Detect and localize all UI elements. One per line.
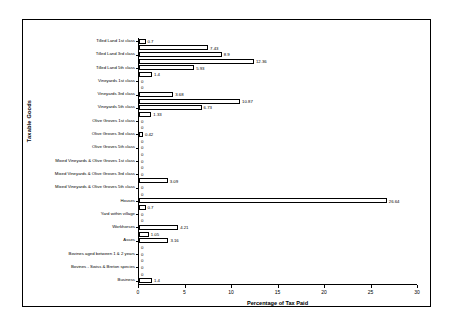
bar — [139, 45, 208, 50]
bar-row: Olive Groves 1st class0 — [138, 118, 417, 125]
bar — [139, 232, 149, 237]
bar — [139, 59, 254, 64]
bar — [139, 92, 173, 97]
chart-figure: Taxable Goods Business1.40Bovines - Swis… — [0, 0, 453, 325]
bar-value-label: 3.16 — [170, 237, 178, 244]
category-label: Mixed Vineyards & Olive Groves 5th class — [0, 184, 138, 191]
bar — [139, 65, 194, 70]
category-label: Vineyards 1st class — [0, 78, 138, 85]
y-axis-tick — [136, 81, 139, 82]
y-axis-tick — [136, 227, 139, 228]
y-axis-tick — [136, 148, 139, 149]
bar-row: 0 — [138, 191, 417, 198]
y-axis-tick — [136, 188, 139, 189]
bar-value-label: 12.36 — [256, 58, 267, 65]
bar-row: Bovines - Swiss & Breton species0 — [138, 264, 417, 271]
bar-value-label: 0 — [141, 124, 143, 131]
bar-row: 0.7 — [138, 204, 417, 211]
bar-row: Mixed Vineyards & Olive Groves 1st class… — [138, 158, 417, 165]
bar-row: Workhorses4.21 — [138, 224, 417, 231]
y-axis-tick — [136, 281, 139, 282]
bar-row: 0 — [138, 244, 417, 251]
bar-value-label: 0 — [141, 84, 143, 91]
bar-value-label: 0 — [141, 251, 143, 258]
category-label: Olive Groves 5th class — [0, 144, 138, 151]
category-label: Olive Groves 1st class — [0, 118, 138, 125]
bar-value-label: 0 — [141, 217, 143, 224]
bar — [139, 39, 146, 44]
bar-value-label: 0 — [141, 138, 143, 145]
bar-value-label: 0.42 — [145, 131, 153, 138]
y-axis-tick — [136, 214, 139, 215]
x-axis-tick-label: 0 — [128, 289, 148, 295]
category-label: Bovines - Swiss & Breton species — [0, 264, 138, 271]
bar-value-label: 8.9 — [224, 51, 230, 58]
bar-row: 0 — [138, 151, 417, 158]
x-axis-tick — [417, 285, 418, 288]
bar-value-label: 5.93 — [196, 65, 204, 72]
bar-row: 3.09 — [138, 178, 417, 185]
bar-row: 0 — [138, 138, 417, 145]
y-axis-tick — [136, 108, 139, 109]
bar-row: 7.43 — [138, 45, 417, 52]
category-label: Olive Groves 3rd class — [0, 131, 138, 138]
bar-value-label: 1.4 — [154, 277, 160, 284]
bar — [139, 72, 152, 77]
x-axis-tick-label: 20 — [314, 289, 334, 295]
y-axis-tick — [136, 201, 139, 202]
x-axis-tick — [324, 285, 325, 288]
bar-row: 0 — [138, 164, 417, 171]
bar-row: Tilled Land 5th class5.93 — [138, 65, 417, 72]
bar-row: Olive Groves 5th class0 — [138, 144, 417, 151]
y-axis-tick — [136, 68, 139, 69]
bar — [139, 105, 202, 110]
bar-row: 10.87 — [138, 98, 417, 105]
x-axis-tick-label: 30 — [407, 289, 427, 295]
x-axis-tick-label: 5 — [175, 289, 195, 295]
bar-row: Vineyards 1st class0 — [138, 78, 417, 85]
y-axis-tick — [136, 134, 139, 135]
bar-row: Mixed Vineyards & Olive Groves 3rd class… — [138, 171, 417, 178]
plot-area: Business1.40Bovines - Swiss & Breton spe… — [138, 38, 417, 284]
x-axis-tick — [278, 285, 279, 288]
bar-row: Bovines aged between 1 & 2 years0 — [138, 251, 417, 258]
bar-row: Asses3.16 — [138, 237, 417, 244]
bar-value-label: 0 — [141, 184, 143, 191]
bar-value-label: 0 — [141, 78, 143, 85]
category-label: Tilled Land 1st class — [0, 38, 138, 45]
bar-value-label: 26.64 — [389, 198, 400, 205]
bar — [139, 132, 143, 137]
y-axis-tick — [136, 254, 139, 255]
bar-row: Vineyards 3rd class3.68 — [138, 91, 417, 98]
bar-value-label: 0 — [141, 244, 143, 251]
bar-value-label: 1.4 — [154, 71, 160, 78]
y-axis-tick — [136, 95, 139, 96]
bar-row: 1.33 — [138, 111, 417, 118]
x-axis-tick — [185, 285, 186, 288]
y-axis-tick — [136, 41, 139, 42]
bar-value-label: 3.68 — [175, 91, 183, 98]
bar-value-label: 0.7 — [148, 38, 154, 45]
y-axis-tick — [136, 55, 139, 56]
bar-value-label: 4.21 — [180, 224, 188, 231]
bar-value-label: 0 — [141, 211, 143, 218]
category-label: Workhorses — [0, 224, 138, 231]
bar-value-label: 10.87 — [242, 98, 253, 105]
bar-value-label: 3.09 — [170, 178, 178, 185]
bar-value-label: 0 — [141, 164, 143, 171]
x-axis-tick — [231, 285, 232, 288]
bar — [139, 278, 152, 283]
bar-value-label: 0 — [141, 271, 143, 278]
bar-value-label: 0 — [141, 191, 143, 198]
y-axis-tick — [136, 161, 139, 162]
category-label: Bovines aged between 1 & 2 years — [0, 251, 138, 258]
category-label: Vineyards 3rd class — [0, 91, 138, 98]
category-label: Mixed Vineyards & Olive Groves 3rd class — [0, 171, 138, 178]
bar-row: Tilled Land 1st class0.7 — [138, 38, 417, 45]
bar-row: 0 — [138, 85, 417, 92]
bar-value-label: 0 — [141, 158, 143, 165]
category-label: Tilled Land 5th class — [0, 65, 138, 72]
bar — [139, 198, 387, 203]
x-axis-tick-label: 25 — [361, 289, 381, 295]
bar-value-label: 0 — [141, 118, 143, 125]
